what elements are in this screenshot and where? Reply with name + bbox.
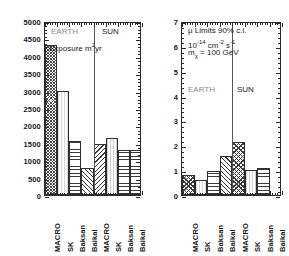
axis-tick <box>45 51 47 52</box>
axis-tick <box>185 23 186 25</box>
axis-tick <box>115 23 116 25</box>
axis-tick <box>262 23 263 25</box>
sun-label-exposure: SUN <box>102 27 119 37</box>
axis-tick <box>257 23 258 27</box>
axis-tick <box>91 23 92 25</box>
axis-tick <box>278 162 280 163</box>
axis-tick <box>210 23 211 25</box>
axis-tick <box>138 68 140 69</box>
axis-tick <box>138 33 140 34</box>
mass-symbol: m <box>188 48 195 57</box>
y-tick-label: 2 <box>174 143 178 150</box>
axis-tick <box>215 23 216 25</box>
axis-tick <box>118 191 119 195</box>
axis-tick <box>138 117 140 118</box>
axis-tick <box>120 193 121 195</box>
axis-tick <box>260 23 261 25</box>
axis-tick <box>74 193 75 195</box>
sun-label-mu-limits: SUN <box>237 85 254 95</box>
axis-tick <box>220 191 221 195</box>
axis-tick <box>260 193 261 195</box>
axis-tick <box>205 193 206 195</box>
axis-tick <box>113 23 114 25</box>
axis-tick <box>276 73 280 74</box>
axis-tick <box>245 23 246 27</box>
axis-tick <box>272 23 273 25</box>
axis-tick <box>182 112 184 113</box>
axis-tick <box>123 23 124 25</box>
axis-tick <box>60 193 61 195</box>
axis-tick <box>138 120 140 121</box>
axis-tick <box>137 193 138 195</box>
x-tick-label: SK <box>66 241 75 252</box>
axis-tick <box>182 38 184 39</box>
axis-tick <box>89 23 90 25</box>
axis-tick <box>138 82 140 83</box>
axis-tick <box>118 23 119 27</box>
axis-tick <box>138 134 140 135</box>
axis-tick <box>138 86 140 87</box>
bar <box>207 171 220 195</box>
axis-tick <box>138 54 140 55</box>
axis-tick <box>138 100 140 101</box>
y-axis-labels-exposure: 5000450040003500300025002000150010005000 <box>0 0 41 256</box>
axis-tick <box>182 73 186 74</box>
axis-tick <box>270 23 271 27</box>
axis-tick <box>45 65 47 66</box>
axis-tick <box>278 167 280 168</box>
axis-tick <box>278 142 280 143</box>
axis-tick <box>182 48 186 49</box>
axis-tick <box>45 58 49 59</box>
axis-tick <box>255 193 256 195</box>
axis-tick <box>136 93 140 94</box>
axis-tick <box>140 193 141 195</box>
axis-tick <box>138 96 140 97</box>
axis-tick <box>278 93 280 94</box>
axis-tick <box>86 23 87 25</box>
y-tick-label: 3500 <box>24 71 42 78</box>
axis-tick <box>103 193 104 195</box>
axis-tick <box>278 58 280 59</box>
axis-tick <box>182 23 183 27</box>
axis-tick <box>182 33 184 34</box>
axis-tick <box>252 193 253 195</box>
axis-tick <box>182 68 184 69</box>
axis-tick <box>108 193 109 195</box>
exposure-quantity-text: Exposure m <box>49 44 92 53</box>
axis-tick <box>182 122 186 123</box>
axis-tick <box>142 23 143 27</box>
axis-tick <box>278 78 280 79</box>
axis-tick <box>138 30 140 31</box>
x-tick-label: Baikal <box>90 229 99 252</box>
axis-tick <box>247 23 248 25</box>
axis-tick <box>136 145 140 146</box>
axis-tick <box>96 193 97 195</box>
axis-tick <box>57 23 58 27</box>
axis-tick <box>45 180 49 181</box>
axis-tick <box>45 162 49 163</box>
plot-inner-mu-limits: μ Limits 90% c.l. 10-14 cm-2 s-1 mχ = 10… <box>182 23 280 195</box>
axis-tick <box>182 187 184 188</box>
axis-tick <box>278 68 280 69</box>
axis-tick <box>265 193 266 195</box>
y-tick-label: 2500 <box>24 106 42 113</box>
axis-tick <box>138 37 140 38</box>
axis-tick <box>277 23 278 25</box>
axis-tick <box>220 23 221 27</box>
axis-tick <box>240 193 241 195</box>
axis-tick <box>182 162 184 163</box>
axis-tick <box>96 23 97 25</box>
x-tick-label: Baksan <box>266 225 275 252</box>
axis-tick <box>280 23 281 25</box>
axis-tick <box>207 23 208 27</box>
axis-tick <box>276 48 280 49</box>
axis-tick <box>138 152 140 153</box>
axis-tick <box>55 23 56 25</box>
axis-tick <box>278 88 280 89</box>
axis-tick <box>45 86 47 87</box>
axis-tick <box>125 23 126 25</box>
axis-tick <box>222 23 223 25</box>
axis-tick <box>123 193 124 195</box>
axis-tick <box>217 193 218 195</box>
axis-tick <box>45 44 47 45</box>
